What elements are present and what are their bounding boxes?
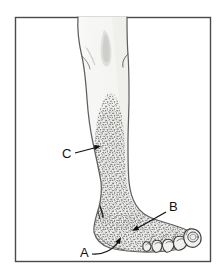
label-a-text: A	[80, 245, 89, 260]
toe-4	[152, 240, 162, 252]
figure-container: C B A	[0, 0, 223, 276]
toe-5	[143, 242, 151, 252]
label-b-text: B	[169, 199, 178, 214]
anatomical-figure: C B A	[0, 0, 223, 276]
label-c-text: C	[62, 146, 71, 161]
